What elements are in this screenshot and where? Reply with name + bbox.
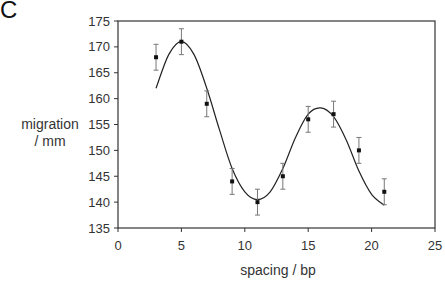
y-tick-label: 155	[88, 117, 110, 132]
data-point	[281, 174, 285, 178]
y-tick-label: 165	[88, 65, 110, 80]
y-tick-label: 135	[88, 221, 110, 236]
data-point	[230, 179, 234, 183]
y-tick-label: 150	[88, 143, 110, 158]
data-point	[306, 117, 310, 121]
data-point	[255, 200, 259, 204]
data-point	[382, 190, 386, 194]
x-tick-label: 15	[301, 238, 315, 253]
y-tick-label: 175	[88, 14, 110, 29]
data-point	[332, 112, 336, 116]
y-tick-label: 160	[88, 91, 110, 106]
x-tick-label: 20	[364, 238, 378, 253]
plot-frame	[118, 21, 435, 228]
y-tick-label: 140	[88, 195, 110, 210]
x-tick-label: 5	[178, 238, 185, 253]
x-tick-label: 0	[114, 238, 121, 253]
x-tick-label: 25	[428, 238, 442, 253]
x-tick-label: 10	[238, 238, 252, 253]
chart-plot: 1351401451501551601651701750510152025	[0, 0, 445, 286]
y-tick-label: 145	[88, 169, 110, 184]
data-point	[154, 55, 158, 59]
y-tick-label: 170	[88, 39, 110, 54]
data-point	[205, 102, 209, 106]
fit-curve	[156, 42, 384, 206]
data-point	[357, 148, 361, 152]
data-point	[179, 40, 183, 44]
